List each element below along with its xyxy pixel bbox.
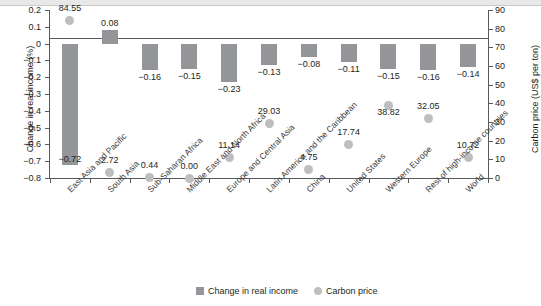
- y-tick-left: [45, 178, 49, 179]
- y-tick-left: [45, 27, 49, 28]
- y-tick-label-left: −0.6: [1, 140, 41, 149]
- bar: [142, 44, 158, 71]
- y-tick-label-left: −0.8: [1, 174, 41, 183]
- y-tick-left: [45, 77, 49, 78]
- x-category-label: China: [305, 172, 327, 194]
- bar-value-label: −0.14: [438, 70, 498, 79]
- y-tick-right: [489, 159, 493, 160]
- y-tick-left: [45, 94, 49, 95]
- x-tick: [209, 179, 210, 183]
- x-tick: [369, 179, 370, 183]
- x-tick: [249, 179, 250, 183]
- y-tick-label-right: 40: [495, 99, 535, 108]
- y-tick-left: [45, 60, 49, 61]
- bar: [341, 44, 357, 62]
- y-tick-right: [489, 103, 493, 104]
- bar-value-label: −0.23: [199, 85, 259, 94]
- scatter-point: [344, 140, 353, 149]
- y-tick-label-left: −0.5: [1, 124, 41, 133]
- legend-item-bar: Change in real income: [196, 286, 298, 296]
- y-tick-label-right: 60: [495, 62, 535, 71]
- legend-bar-swatch-icon: [196, 287, 204, 295]
- x-tick: [329, 179, 330, 183]
- legend-dot-label: Carbon price: [326, 286, 378, 296]
- x-tick: [448, 179, 449, 183]
- y-tick-right: [489, 85, 493, 86]
- scatter-value-label: 29.03: [239, 107, 299, 116]
- y-tick-label-right: 90: [495, 6, 535, 15]
- scatter-point: [105, 168, 114, 177]
- bar: [380, 44, 396, 69]
- scatter-point: [304, 165, 313, 174]
- scatter-value-label: 32.05: [398, 102, 458, 111]
- bar-value-label: −0.13: [239, 68, 299, 77]
- y-tick-label-left: −0.4: [1, 107, 41, 116]
- chart-legend: Change in real income Carbon price: [196, 286, 388, 296]
- y-tick-left: [45, 128, 49, 129]
- bar: [261, 44, 277, 66]
- y-tick-left: [45, 144, 49, 145]
- bar: [181, 44, 197, 69]
- x-tick: [488, 179, 489, 183]
- x-tick: [289, 179, 290, 183]
- legend-dot-swatch-icon: [314, 287, 322, 295]
- y-axis-right-line: [488, 10, 489, 179]
- y-tick-label-right: 20: [495, 137, 535, 146]
- bar: [420, 44, 436, 71]
- y-tick-label-left: −0.1: [1, 56, 41, 65]
- x-tick: [408, 179, 409, 183]
- scatter-value-label: 84.55: [40, 4, 100, 13]
- y-tick-right: [489, 29, 493, 30]
- x-category-label: Middle East and North Africa: [185, 112, 268, 195]
- x-tick: [50, 179, 51, 183]
- x-tick: [130, 179, 131, 183]
- bar: [460, 44, 476, 68]
- y-tick-right: [489, 178, 493, 179]
- y-tick-label-left: 0.2: [1, 6, 41, 15]
- y-tick-label-right: 80: [495, 25, 535, 34]
- bar: [102, 30, 118, 43]
- x-category-label: World: [464, 172, 486, 194]
- y-tick-left: [45, 44, 49, 45]
- x-tick: [90, 179, 91, 183]
- y-tick-label-right: 0: [495, 174, 535, 183]
- bar-value-label: −0.15: [159, 72, 219, 81]
- bar: [301, 44, 317, 57]
- y-tick-label-left: 0.1: [1, 23, 41, 32]
- y-tick-right: [489, 10, 493, 11]
- bar: [221, 44, 237, 83]
- legend-bar-label: Change in real income: [208, 286, 298, 296]
- y-tick-label-left: −0.7: [1, 157, 41, 166]
- legend-item-dot: Carbon price: [314, 286, 378, 296]
- bar-value-label: 0.08: [80, 19, 140, 28]
- x-tick: [169, 179, 170, 183]
- x-category-label: United States: [345, 152, 387, 194]
- y-tick-label-right: 10: [495, 155, 535, 164]
- y-tick-right: [489, 47, 493, 48]
- y-tick-label-left: −0.3: [1, 90, 41, 99]
- y-tick-left: [45, 111, 49, 112]
- y-tick-right: [489, 66, 493, 67]
- y-tick-label-right: 70: [495, 43, 535, 52]
- y-tick-label-left: −0.2: [1, 73, 41, 82]
- y-tick-label-right: 50: [495, 81, 535, 90]
- scatter-point: [424, 114, 433, 123]
- scatter-point: [65, 16, 74, 25]
- scatter-point: [265, 119, 274, 128]
- y-tick-label-left: 0: [1, 40, 41, 49]
- bar: [62, 44, 78, 165]
